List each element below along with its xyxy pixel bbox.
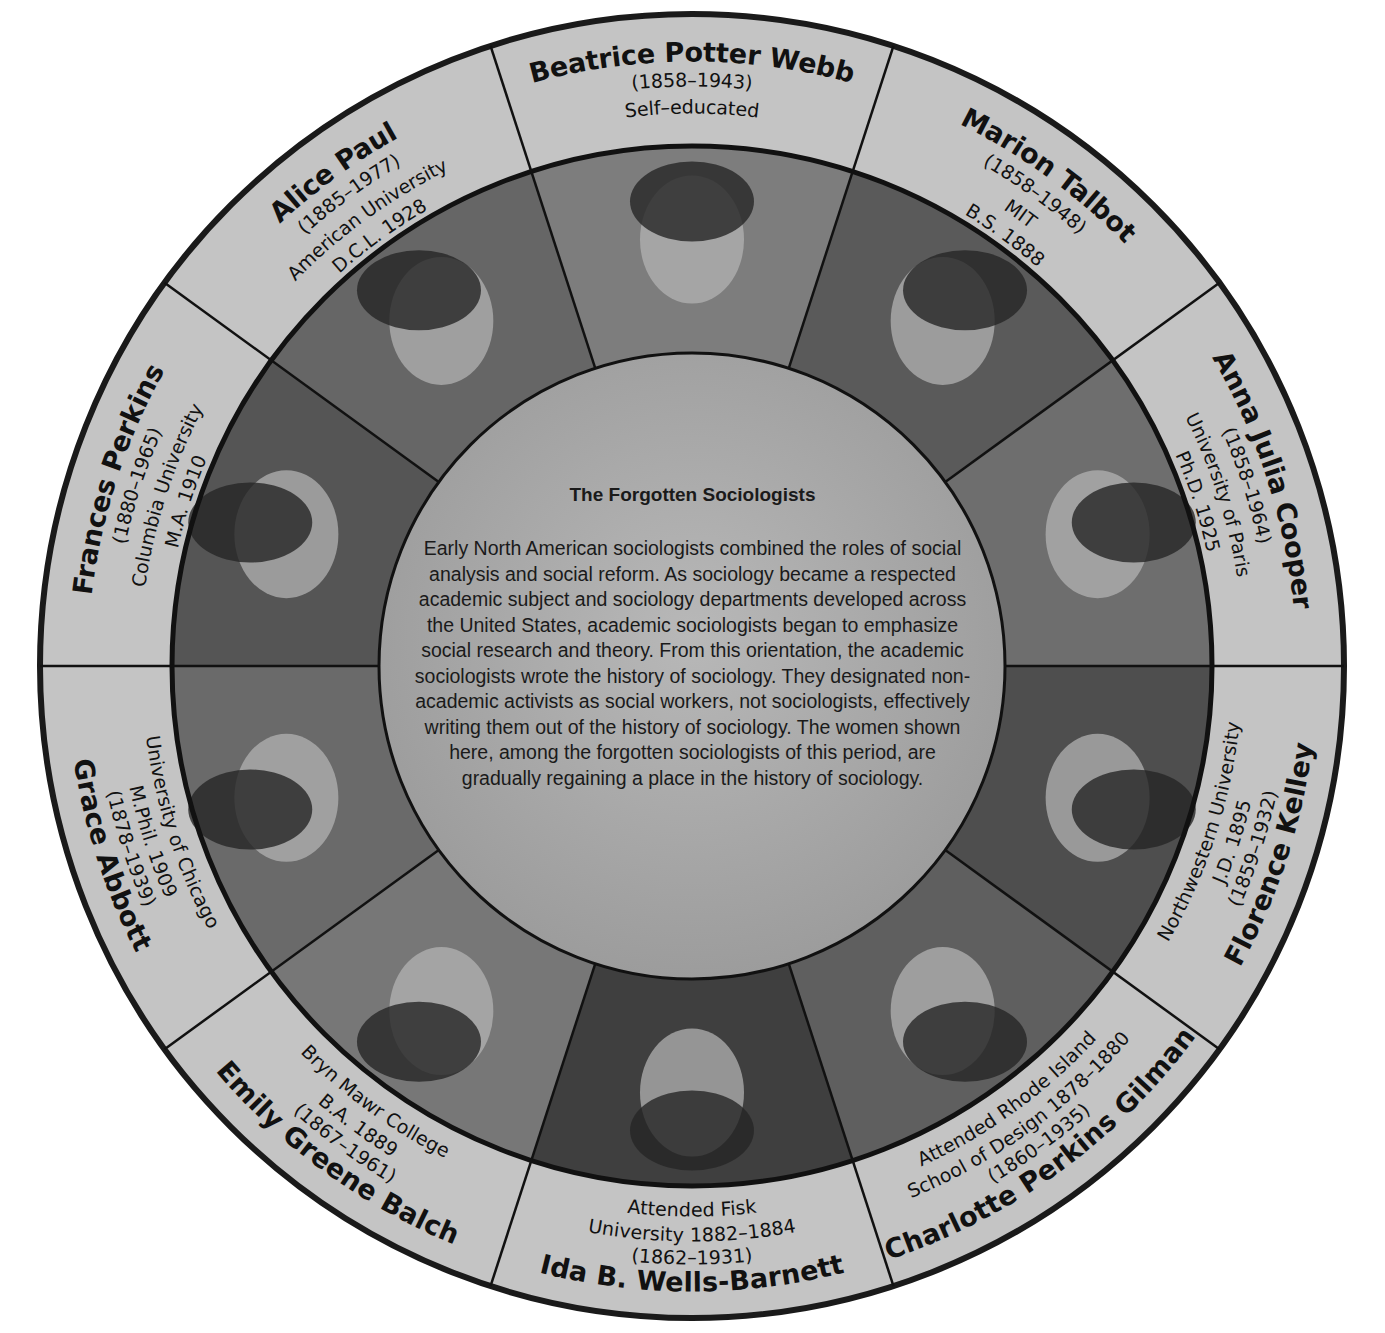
center-body-text: Early North American sociologists combin… (400, 536, 985, 791)
portrait-hair-icon (1072, 770, 1196, 850)
portrait-hair-icon (357, 250, 481, 330)
portrait-hair-icon (903, 1002, 1027, 1082)
portrait-hair-icon (903, 250, 1027, 330)
portrait-hair-icon (188, 770, 312, 850)
portrait-hair-icon (357, 1002, 481, 1082)
sociologist-years: (1862–1931) (631, 1243, 754, 1268)
center-title: The Forgotten Sociologists (400, 484, 985, 506)
center-panel: The Forgotten Sociologists Early North A… (400, 470, 985, 890)
sociologist-years: (1858–1943) (630, 68, 753, 93)
portrait-hair-icon (630, 1091, 754, 1171)
portrait-hair-icon (630, 162, 754, 242)
portrait-hair-icon (188, 482, 312, 562)
sociologist-education: Attended Fisk (627, 1195, 758, 1221)
portrait-hair-icon (1072, 482, 1196, 562)
